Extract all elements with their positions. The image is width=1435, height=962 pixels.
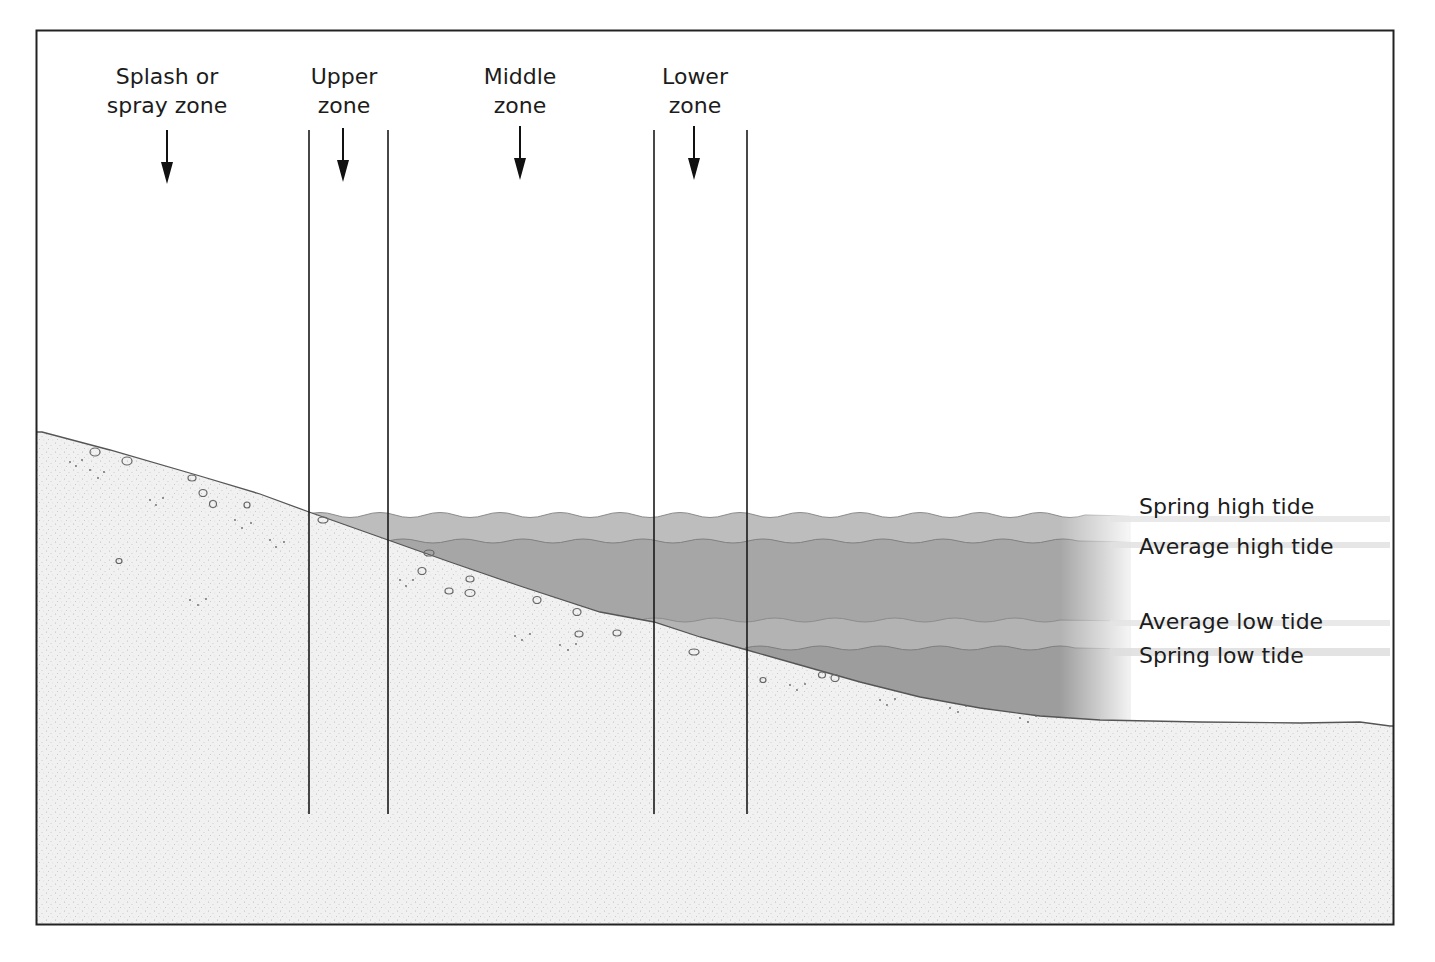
zone-arrows: [161, 126, 700, 184]
zone-label-line: Upper: [311, 62, 378, 91]
arrow-down-icon: [161, 130, 173, 184]
zone-label-upper: Upper zone: [311, 62, 378, 120]
tide-label-average-high: Average high tide: [1139, 534, 1334, 560]
zone-label-line: zone: [484, 91, 557, 120]
arrow-down-icon: [337, 128, 349, 182]
tide-label-spring-high: Spring high tide: [1139, 494, 1314, 520]
zone-label-line: zone: [662, 91, 728, 120]
zone-label-splash: Splash or spray zone: [107, 62, 227, 120]
zone-label-line: spray zone: [107, 91, 227, 120]
zone-label-middle: Middle zone: [484, 62, 557, 120]
arrow-down-icon: [514, 126, 526, 180]
zone-label-line: Splash or: [107, 62, 227, 91]
zone-label-line: Lower: [662, 62, 728, 91]
tide-label-average-low: Average low tide: [1139, 609, 1323, 635]
intertidal-diagram: Splash or spray zone Upper zone Middle z…: [0, 0, 1435, 962]
zone-label-line: zone: [311, 91, 378, 120]
arrow-down-icon: [688, 126, 700, 180]
zone-label-lower: Lower zone: [662, 62, 728, 120]
zone-label-line: Middle: [484, 62, 557, 91]
tide-label-spring-low: Spring low tide: [1139, 643, 1304, 669]
diagram-canvas: [0, 0, 1435, 962]
